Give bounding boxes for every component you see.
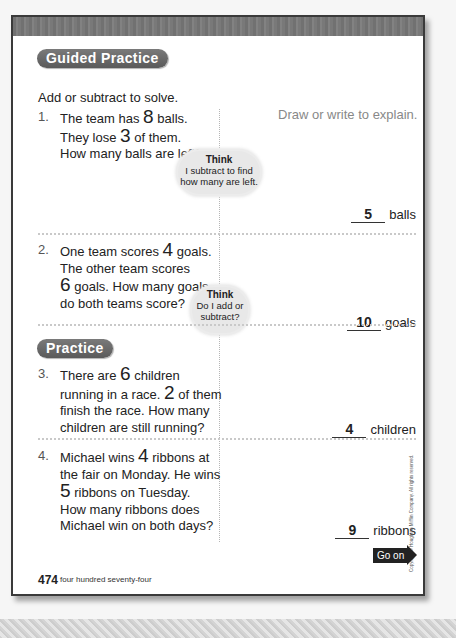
answer-blank[interactable]: 9 <box>335 522 369 539</box>
page-number-words: four hundred seventy-four <box>60 575 152 584</box>
problem-line: How many ribbons does <box>60 502 230 519</box>
problem-number: 3. <box>38 366 60 383</box>
problem-line: One team scores 4 goals. <box>60 242 230 261</box>
problem-line: The team has 8 balls. <box>60 109 230 128</box>
page-number: 474 <box>38 573 58 587</box>
problem-line: Michael wins 4 ribbons at <box>60 448 230 467</box>
horizontal-divider <box>38 233 416 235</box>
think-title: Think <box>192 289 248 300</box>
answer-unit: children <box>370 422 416 437</box>
page-header-band <box>13 17 423 36</box>
problem-number: 4. <box>38 448 60 465</box>
think-cloud: Think Do I add or subtract? <box>192 287 248 333</box>
answer-4: 9ribbons <box>335 522 416 539</box>
answer-3: 4children <box>332 421 416 438</box>
answer-unit: goals <box>385 315 416 330</box>
problem-line: The other team scores <box>60 261 230 278</box>
go-on-arrow[interactable]: Go on <box>373 548 407 563</box>
problem-number: 2. <box>38 242 60 259</box>
background-texture-band <box>0 619 456 638</box>
problem-number: 1. <box>38 109 60 126</box>
horizontal-divider <box>38 438 416 440</box>
answer-blank[interactable]: 10 <box>347 314 381 331</box>
answer-unit: balls <box>389 207 416 222</box>
answer-blank[interactable]: 5 <box>351 206 385 223</box>
think-text: how many are left. <box>178 176 260 187</box>
think-text: I subtract to find <box>178 165 260 176</box>
instructions: Add or subtract to solve. <box>38 90 178 105</box>
answer-2: 10goals <box>347 314 416 331</box>
explain-label: Draw or write to explain. <box>278 107 417 122</box>
problem-line: 5 ribbons on Tuesday. <box>60 483 230 502</box>
practice-badge: Practice <box>37 339 113 358</box>
problem-3: 3. There are 6 children running in a rac… <box>38 366 223 434</box>
problem-line: children are still running? <box>60 420 230 437</box>
think-text: Do I add or <box>192 300 248 311</box>
guided-practice-badge: Guided Practice <box>37 49 168 68</box>
problem-line: Michael win on both days? <box>60 518 230 535</box>
think-text: subtract? <box>192 311 248 322</box>
answer-1: 5balls <box>351 206 416 223</box>
workbook-page: Guided Practice Add or subtract to solve… <box>11 15 425 596</box>
problem-line: They lose 3 of them. <box>60 128 230 147</box>
horizontal-divider <box>38 324 416 326</box>
problem-line: running in a race. 2 of them <box>60 385 230 404</box>
problem-4: 4. Michael wins 4 ribbons at the fair on… <box>38 448 223 533</box>
answer-blank[interactable]: 4 <box>332 421 366 438</box>
think-cloud: Think I subtract to find how many are le… <box>178 151 260 194</box>
think-title: Think <box>178 154 260 165</box>
problem-line: There are 6 children <box>60 366 230 385</box>
problem-line: the fair on Monday. He wins <box>60 467 230 484</box>
problem-line: finish the race. How many <box>60 403 230 420</box>
